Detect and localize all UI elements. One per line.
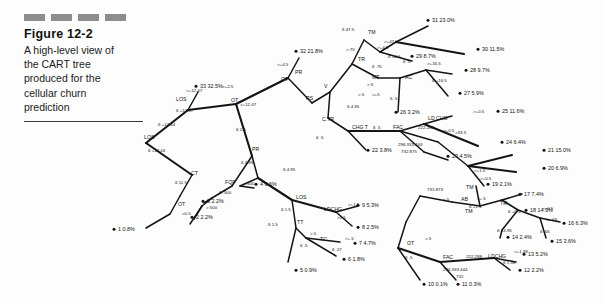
tree-leaf-node <box>367 149 370 152</box>
tree-branch-condition: δ +1.5 <box>469 204 482 209</box>
tree-edge <box>180 175 192 196</box>
tree-branch-condition: >.500 <box>243 181 255 186</box>
tree-branch-condition: δ +4.95 <box>497 228 512 233</box>
tree-leaf-node <box>543 149 546 152</box>
tree-edge <box>146 214 170 228</box>
cart-tree-diagram: 1 0.8%2 2.2%3 2.2%4 6.6%5 0.9%6 1.8%7 4.… <box>0 0 606 304</box>
tree-edge-layer <box>146 26 560 280</box>
tree-leaf-label: 3 2.2% <box>207 198 224 204</box>
tree-split-label: RS <box>306 95 314 101</box>
tree-branch-condition: >+16.5 <box>427 61 441 66</box>
tree-edge <box>288 58 299 78</box>
tree-branch-condition: δ 47.5 <box>342 27 355 32</box>
tree-leaf-node <box>563 222 566 225</box>
tree-branch-condition: δ 1.5 <box>268 222 278 227</box>
tree-branch-condition: >+5 <box>372 92 380 97</box>
tree-edge <box>312 92 330 103</box>
tree-edge <box>400 70 426 78</box>
tree-leaf-label: 7 4.7% <box>359 240 376 246</box>
tree-edge <box>398 222 406 248</box>
tree-leaf-node <box>354 242 357 245</box>
tree-leaf-label: 17 7.4% <box>524 191 544 197</box>
tree-edge <box>396 26 428 42</box>
tree-branch-condition: >.5 <box>358 92 365 97</box>
tree-edge <box>406 196 420 222</box>
tree-leaf-node <box>543 167 546 170</box>
cart-tree-svg: 1 0.8%2 2.2%3 2.2%4 6.6%5 0.9%6 1.8%7 4.… <box>0 0 606 304</box>
tree-split-label: CHG T <box>352 124 369 130</box>
tree-branch-condition: >.5 <box>367 82 374 87</box>
tree-branch-condition: >+1.5 <box>474 168 486 173</box>
tree-leaf-node <box>525 209 528 212</box>
tree-branch-condition: δ .5 <box>390 96 398 101</box>
tree-edge <box>330 64 352 92</box>
tree-branch-condition: >+12.47 <box>240 102 257 107</box>
tree-leaf-label: 1 0.8% <box>118 226 135 232</box>
tree-leaf-label: 21 15.0% <box>548 147 571 153</box>
tree-edge <box>398 248 420 280</box>
tree-branch-condition: δ 4.95 <box>241 160 254 165</box>
tree-leaf-node <box>427 19 430 22</box>
tree-leaf-label: 29 8.7% <box>416 53 436 59</box>
tree-edge <box>426 70 452 74</box>
tree-split-label: TT <box>297 219 304 225</box>
tree-branch-condition: δ 11.5 <box>175 180 187 185</box>
tree-leaf-label: 15 3.6% <box>556 238 576 244</box>
tree-leaf-layer: 1 0.8%2 2.2%3 2.2%4 6.6%5 0.9%6 1.8%7 4.… <box>113 17 588 287</box>
tree-branch-condition: >+47.5 <box>384 39 398 44</box>
tree-split-label: OT <box>281 76 289 82</box>
tree-leaf-label: 23 4.5% <box>452 153 472 159</box>
tree-branch-condition: δ .65 <box>540 229 550 234</box>
tree-split-label: V <box>324 83 328 89</box>
tree-leaf-node <box>295 269 298 272</box>
tree-branch-condition: δ +12.44 <box>158 122 176 127</box>
tree-split-label: PR <box>252 146 259 152</box>
tree-branch-condition: δ +12.44 <box>148 148 166 153</box>
tree-branch-condition: δ 2.5 <box>236 127 246 132</box>
tree-leaf-node <box>457 283 460 286</box>
tree-edge <box>328 92 330 118</box>
tree-split-label: TM <box>466 184 474 190</box>
tree-leaf-label: 28 9.7% <box>470 67 490 73</box>
tree-leaf-node <box>395 111 398 114</box>
tree-leaf-label: 19 2.1% <box>492 181 512 187</box>
tree-edge <box>424 152 448 160</box>
tree-leaf-node <box>357 226 360 229</box>
tree-split-label: TC <box>320 236 327 242</box>
tree-branch-condition: >.5 <box>310 231 317 236</box>
tree-branch-condition: 732.875 <box>401 149 417 154</box>
tree-branch-condition: >+.65 <box>546 217 558 222</box>
tree-split-label: TR <box>358 56 365 62</box>
tree-leaf-label: 24 6.4% <box>506 139 526 145</box>
tree-leaf-label: 26 3.2% <box>400 109 420 115</box>
tree-leaf-label: 33 32.5% <box>200 83 223 89</box>
tree-branch-condition: >+.5 <box>477 196 486 201</box>
tree-leaf-node <box>255 183 258 186</box>
tree-leaf-label: 22 3.8% <box>372 147 392 153</box>
tree-leaf-node <box>191 216 194 219</box>
tree-branch-condition: 222.288 <box>466 254 482 259</box>
tree-leaf-label: 14 2.4% <box>512 234 532 240</box>
tree-leaf-label: 9 5.3% <box>362 202 379 208</box>
figure-page: Figure 12-2 A high-level view of the CAR… <box>0 0 606 304</box>
tree-leaf-node <box>519 269 522 272</box>
tree-edge <box>348 131 366 150</box>
tree-branch-condition: >33.5 <box>455 130 467 135</box>
tree-leaf-node <box>477 48 480 51</box>
tree-branch-condition: >0.5 <box>182 211 191 216</box>
tree-branch-condition: >+2.5 <box>222 84 234 89</box>
tree-branch-condition: >+0.5 <box>542 206 554 211</box>
tree-branch-condition: δ 1.5 <box>281 207 291 212</box>
tree-split-label: FAC <box>393 124 403 130</box>
tree-leaf-node <box>507 236 510 239</box>
tree-split-label: TM <box>368 29 376 35</box>
tree-split-label: MT <box>372 74 380 80</box>
tree-branch-condition: δ .5 <box>300 243 308 248</box>
tree-split-label: FAC <box>443 254 453 260</box>
tree-leaf-node <box>459 92 462 95</box>
tree-leaf-node <box>487 183 490 186</box>
tree-edge <box>296 228 306 238</box>
tree-branch-condition: δ +12.47 <box>176 108 194 113</box>
tree-split-label: OT <box>231 97 239 103</box>
tree-leaf-node <box>295 50 298 53</box>
